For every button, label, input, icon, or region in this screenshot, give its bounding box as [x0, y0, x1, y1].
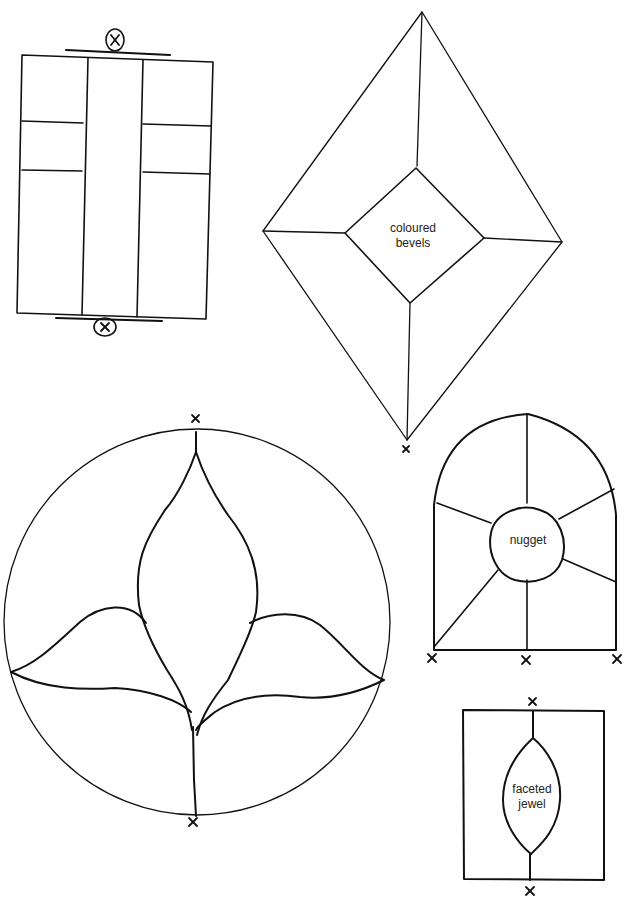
x-mark-icon — [403, 446, 409, 452]
x-mark-icon — [526, 887, 534, 895]
x-mark-icon — [192, 415, 199, 422]
circle-panel — [4, 429, 390, 816]
diamond-label-line2: bevels — [396, 236, 431, 250]
x-mark-icon — [428, 654, 436, 662]
x-mark-icon — [529, 698, 536, 705]
arch-panel — [434, 414, 616, 650]
x-mark-icon — [111, 35, 119, 45]
diamond-label-line1: coloured — [390, 221, 436, 235]
x-mark-icon — [613, 655, 621, 663]
pattern-sheet: coloured bevels nugget faceted jewel — [0, 0, 637, 913]
x-mark-icon — [522, 656, 530, 664]
alignment-marks — [101, 35, 621, 895]
jewel-label-line2: jewel — [517, 797, 545, 811]
rectangle-panel — [17, 29, 213, 336]
x-mark-icon — [101, 323, 109, 331]
jewel-label-line1: faceted — [512, 782, 551, 796]
nugget-label: nugget — [510, 533, 547, 547]
x-mark-icon — [189, 818, 197, 826]
